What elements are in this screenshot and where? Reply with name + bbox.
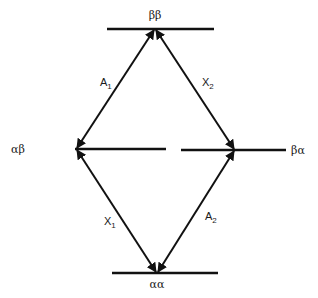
level-ba-label: βα: [291, 144, 305, 157]
transition-a1-label: A1: [100, 76, 112, 91]
level-ab-label: αβ: [11, 143, 25, 156]
transition-a1-arrow: [77, 30, 154, 148]
transition-x1-arrow: [77, 150, 156, 272]
transition-x2-arrow: [156, 30, 234, 149]
level-aa-label: αα: [150, 278, 165, 291]
transition-x2-label: X2: [202, 76, 214, 91]
transition-x1-label: X1: [104, 215, 116, 230]
transition-a2-arrow: [158, 151, 234, 272]
energy-level-diagram: ββ αβ βα αα A1 X2 X1 A2: [0, 0, 318, 298]
transition-a2-label: A2: [205, 210, 217, 225]
level-bb-label: ββ: [149, 9, 162, 22]
